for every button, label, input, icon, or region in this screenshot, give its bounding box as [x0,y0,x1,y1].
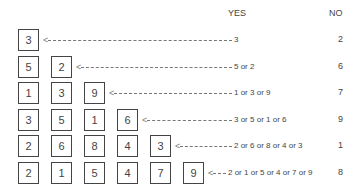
number-box: 5 [84,162,105,184]
number-box: 5 [51,109,72,131]
number-box: 7 [150,162,171,184]
yes-label: 5 or 2 [234,62,254,71]
no-value: 7 [338,87,343,97]
dashed-arrow [180,146,232,147]
yes-label: 3 [234,35,238,44]
number-box: 9 [183,162,204,184]
number-box: 1 [51,162,72,184]
dashed-arrow [81,67,232,68]
number-box: 9 [84,82,105,104]
dashed-arrow [147,120,232,121]
dashed-arrow [48,40,232,41]
number-box: 4 [117,135,138,157]
no-value: 2 [338,34,343,44]
no-value: 9 [338,114,343,124]
number-box: 6 [117,109,138,131]
number-box: 6 [51,135,72,157]
number-box: 3 [51,82,72,104]
dashed-arrow [114,93,232,94]
number-box: 1 [18,82,39,104]
yes-header: YES [228,8,246,18]
no-header: NO [329,8,343,18]
number-box: 8 [84,135,105,157]
number-box: 3 [150,135,171,157]
no-value: 6 [338,61,343,71]
number-box: 2 [18,162,39,184]
number-box: 3 [18,29,39,51]
number-box: 4 [117,162,138,184]
no-value: 1 [338,140,343,150]
yes-label: 3 or 5 or 1 or 6 [234,115,286,124]
number-box: 1 [84,109,105,131]
number-box: 2 [18,135,39,157]
no-value: 8 [338,167,343,177]
dashed-arrow [213,173,226,174]
number-box: 2 [51,56,72,78]
yes-label: 1 or 3 or 9 [234,88,270,97]
yes-label: 2 or 6 or 8 or 4 or 3 [234,141,302,150]
number-box: 5 [18,56,39,78]
yes-label: 2 or 1 or 5 or 4 or 7 or 9 [228,168,313,177]
number-box: 3 [18,109,39,131]
